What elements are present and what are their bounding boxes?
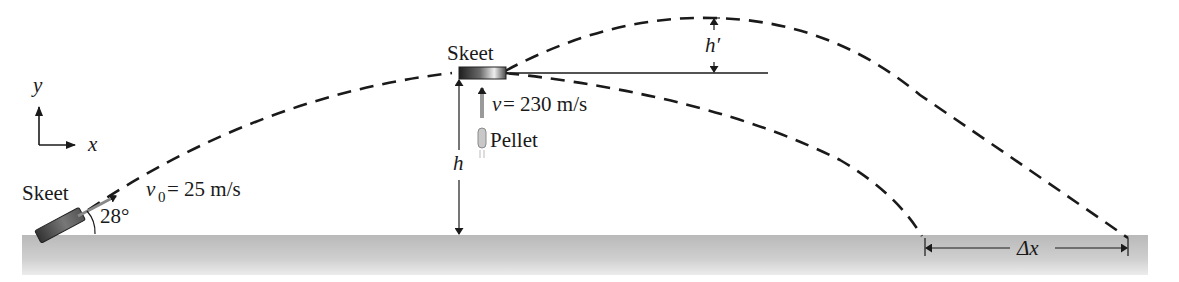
launch-angle-label: 28°	[100, 204, 129, 228]
h-dimension: h	[453, 80, 464, 234]
collision-skeet: Skeet	[447, 41, 506, 79]
y-axis-label: y	[31, 73, 43, 97]
v0-symbol: v	[146, 177, 156, 201]
x-axis-label: x	[87, 132, 98, 156]
h-prime-label: h′	[705, 33, 721, 57]
v0-subscript: 0	[158, 189, 166, 205]
v-symbol: v	[492, 92, 502, 116]
launch-velocity-label: v 0 = 25 m/s	[146, 177, 241, 205]
delta-x-label: Δx	[1016, 236, 1039, 260]
h-label: h	[453, 151, 464, 175]
angle-arc	[87, 211, 95, 234]
upper-trajectory-after-collision	[505, 18, 1128, 238]
skeet-projectile-diagram: y x h′ Skeet 28° v 0 = 25 m/s Skeet	[0, 0, 1179, 282]
launch-trajectory	[88, 73, 452, 210]
v-value: = 230 m/s	[503, 92, 587, 116]
ground	[22, 235, 1148, 275]
pellet-label: Pellet	[490, 128, 538, 152]
collision-skeet-label: Skeet	[447, 41, 494, 65]
launch-skeet-label: Skeet	[22, 181, 69, 205]
pellet-velocity-label: v = 230 m/s	[492, 92, 587, 116]
v0-value: = 25 m/s	[167, 177, 241, 201]
h-prime-dimension: h′	[705, 18, 721, 72]
coordinate-axes: y x	[31, 73, 98, 156]
launch-skeet: Skeet 28°	[22, 181, 129, 243]
